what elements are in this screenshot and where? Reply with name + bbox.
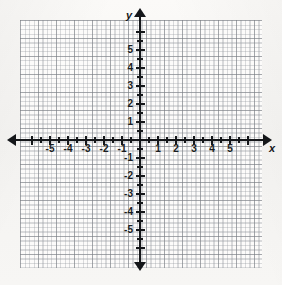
y-axis-name-label: y bbox=[126, 9, 132, 21]
y-axis-tick bbox=[137, 184, 143, 186]
x-axis-tick bbox=[238, 137, 240, 143]
y-axis-tick bbox=[136, 103, 145, 105]
y-axis-tick bbox=[136, 175, 145, 177]
y-axis-tick bbox=[137, 40, 143, 42]
y-axis-tick-label: 1 bbox=[127, 117, 133, 127]
y-axis-tick bbox=[137, 148, 143, 150]
y-axis-tick-label: 5 bbox=[127, 45, 133, 55]
x-axis-tick bbox=[166, 137, 168, 143]
x-axis-tick-label: -2 bbox=[100, 144, 109, 154]
x-axis-arrow-left-icon bbox=[7, 134, 16, 146]
y-axis-tick bbox=[136, 67, 145, 69]
y-axis-tick bbox=[137, 58, 143, 60]
x-axis-tick bbox=[40, 137, 42, 143]
y-axis-tick-label: 3 bbox=[127, 81, 133, 91]
y-axis-tick bbox=[137, 220, 143, 222]
x-axis-tick-label: 1 bbox=[155, 144, 161, 154]
y-axis-arrow-up-icon bbox=[134, 8, 146, 17]
y-axis-tick bbox=[137, 238, 143, 240]
x-axis-tick-label: 5 bbox=[227, 144, 233, 154]
x-axis-tick bbox=[76, 137, 78, 143]
y-axis-tick bbox=[136, 85, 145, 87]
x-axis-tick-label: 3 bbox=[191, 144, 197, 154]
y-axis-tick bbox=[136, 247, 145, 249]
y-axis-tick bbox=[137, 166, 143, 168]
y-axis-tick-label: 2 bbox=[127, 99, 133, 109]
x-axis-tick bbox=[130, 137, 132, 143]
y-axis-tick bbox=[137, 94, 143, 96]
y-axis-tick bbox=[137, 202, 143, 204]
y-axis-tick-label: -2 bbox=[124, 171, 133, 181]
x-axis-tick bbox=[202, 137, 204, 143]
x-axis-tick-label: -5 bbox=[46, 144, 55, 154]
x-axis-tick bbox=[112, 137, 114, 143]
x-axis-tick-label: 4 bbox=[209, 144, 215, 154]
x-axis-tick bbox=[31, 136, 33, 145]
y-axis-tick-label: -5 bbox=[124, 225, 133, 235]
y-axis-tick bbox=[136, 229, 145, 231]
y-axis-tick-label: -4 bbox=[124, 207, 133, 217]
y-axis-tick bbox=[136, 193, 145, 195]
x-axis-tick bbox=[94, 137, 96, 143]
y-axis-tick bbox=[136, 157, 145, 159]
y-axis-tick bbox=[137, 112, 143, 114]
x-axis-tick-label: -3 bbox=[82, 144, 91, 154]
y-axis-tick bbox=[136, 31, 145, 33]
x-axis-tick-label: -4 bbox=[64, 144, 73, 154]
x-axis-tick bbox=[247, 136, 249, 145]
x-axis-tick-label: 2 bbox=[173, 144, 179, 154]
x-axis-tick bbox=[220, 137, 222, 143]
y-axis-tick bbox=[136, 121, 145, 123]
y-axis-arrow-down-icon bbox=[134, 262, 146, 271]
coordinate-plane-figure: -5-4-3-2-11234554321-1-2-3-4-5 x y bbox=[0, 0, 282, 285]
x-axis-tick bbox=[148, 137, 150, 143]
y-axis-tick bbox=[136, 49, 145, 51]
y-axis-tick-label: 4 bbox=[127, 63, 133, 73]
x-axis-name-label: x bbox=[269, 142, 275, 154]
x-axis-tick bbox=[58, 137, 60, 143]
y-axis-tick-label: -3 bbox=[124, 189, 133, 199]
y-axis-tick bbox=[136, 211, 145, 213]
y-axis-tick bbox=[137, 130, 143, 132]
y-axis-tick bbox=[137, 76, 143, 78]
y-axis-tick-label: -1 bbox=[124, 153, 133, 163]
x-axis-tick bbox=[184, 137, 186, 143]
